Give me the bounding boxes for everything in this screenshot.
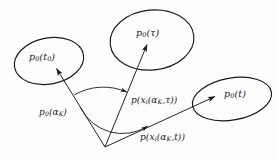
angle-arc-tau: [74, 87, 127, 95]
diagram-svg: [0, 0, 278, 160]
vector-label-xi-alpha-tau: p(xi(αK,τ)): [131, 96, 177, 105]
figure-canvas: p0(t0) p0(τ) p0(t) p0(αK) p(xi(αK,τ)) p(…: [0, 0, 278, 160]
vector-label-xi-alpha-t: p(xi(αK,t)): [140, 133, 185, 142]
set-ellipse-tau: [107, 6, 197, 74]
set-label-tau: p0(τ): [136, 28, 159, 39]
set-label-t0: p0(t0): [29, 52, 55, 63]
set-label-t: p0(t): [224, 89, 246, 100]
vector-label-alpha-k: p0(αK): [39, 108, 67, 117]
angle-arc-t: [80, 107, 148, 133]
